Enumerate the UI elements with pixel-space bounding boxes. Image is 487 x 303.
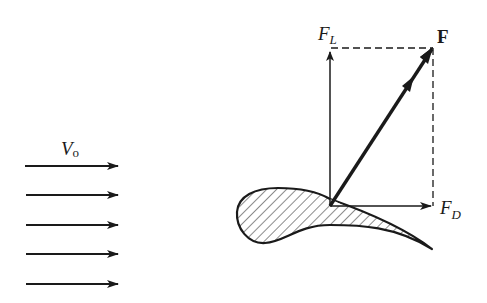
- lift-force-label: FL: [317, 23, 337, 47]
- free-stream-arrows: [25, 166, 118, 284]
- drag-force-label: FD: [439, 197, 462, 222]
- resultant-force-arrow: [330, 47, 433, 206]
- airfoil-force-diagram: Vo FL F FD: [0, 0, 487, 303]
- free-stream-velocity-label: Vo: [61, 138, 79, 160]
- resultant-force-label: F: [437, 26, 449, 47]
